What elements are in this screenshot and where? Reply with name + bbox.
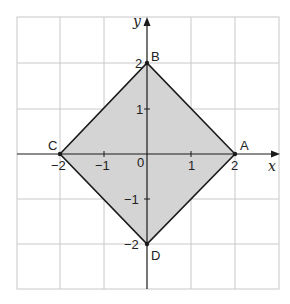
y-tick-2: 2	[135, 56, 142, 71]
point-label-c: C	[48, 138, 57, 153]
point-label-b: B	[151, 49, 160, 64]
y-tick-neg2: −2	[124, 237, 139, 252]
point-label-d: D	[151, 248, 160, 263]
y-tick-neg1: −1	[124, 192, 139, 207]
x-tick-neg1: −1	[95, 158, 110, 173]
x-tick-2: 2	[231, 158, 238, 173]
y-tick-1: 1	[136, 102, 143, 117]
x-tick-1: 1	[188, 158, 195, 173]
y-axis-arrow-icon	[144, 17, 151, 26]
origin-label: 0	[137, 155, 144, 170]
y-axis-label: y	[132, 13, 142, 29]
x-tick-neg2: −2	[51, 158, 66, 173]
coordinate-plane: x y −2 −1 0 1 2 2 1 −1 −2 A B C D	[0, 0, 290, 304]
point-label-a: A	[240, 138, 249, 153]
x-axis-label: x	[268, 158, 276, 174]
